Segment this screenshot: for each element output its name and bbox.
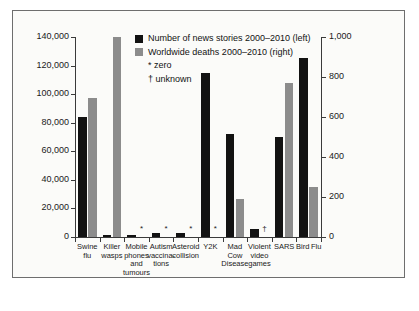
legend-item-news-stories: Number of news stories 2000–2010 (left) — [135, 32, 311, 46]
marker-unknown: † — [260, 225, 269, 233]
right-tick — [322, 237, 326, 238]
bar-news-stories — [250, 229, 259, 237]
bar-news-stories — [226, 134, 235, 237]
chart-figure: 020,00040,00060,00080,000100,000120,0001… — [12, 10, 405, 278]
legend-note-unknown-label: † unknown — [135, 73, 192, 87]
left-tick — [71, 94, 75, 95]
right-tick-label: 400 — [329, 152, 344, 161]
bar-deaths — [285, 83, 294, 237]
legend-label-deaths: Worldwide deaths 2000–2010 (right) — [148, 46, 293, 60]
right-tick-label: 1,000 — [329, 32, 352, 41]
chart-legend: Number of news stories 2000–2010 (left) … — [135, 32, 311, 86]
legend-note-zero-label: * zero — [135, 59, 172, 73]
left-tick-label: 100,000 — [36, 89, 69, 98]
marker-zero: * — [186, 225, 195, 233]
x-tick — [223, 238, 224, 242]
right-tick-label: 200 — [329, 192, 344, 201]
left-tick — [71, 123, 75, 124]
right-tick — [322, 77, 326, 78]
bar-news-stories — [176, 233, 185, 237]
x-tick — [75, 238, 76, 242]
left-tick-label: 60,000 — [41, 146, 69, 155]
right-tick-label: 0 — [329, 232, 334, 241]
legend-item-deaths: Worldwide deaths 2000–2010 (right) — [135, 46, 311, 60]
bar-news-stories — [152, 233, 161, 237]
left-tick — [71, 180, 75, 181]
bar-news-stories — [127, 235, 136, 237]
legend-label-news: Number of news stories 2000–2010 (left) — [148, 32, 311, 46]
marker-zero: * — [162, 225, 171, 233]
right-tick — [322, 197, 326, 198]
legend-swatch-news-icon — [135, 35, 143, 43]
right-tick — [322, 37, 326, 38]
bar-news-stories — [103, 235, 112, 237]
legend-swatch-deaths-icon — [135, 48, 143, 56]
left-tick-label: 120,000 — [36, 61, 69, 70]
left-tick-label: 0 — [64, 232, 69, 241]
bar-deaths — [309, 187, 318, 237]
left-tick-label: 140,000 — [36, 32, 69, 41]
left-tick — [71, 208, 75, 209]
legend-note-zero: * zero — [135, 59, 311, 73]
bar-deaths — [236, 199, 245, 237]
right-tick — [322, 157, 326, 158]
x-tick — [100, 238, 101, 242]
x-tick — [272, 238, 273, 242]
bar-news-stories — [78, 117, 87, 237]
right-tick-label: 600 — [329, 112, 344, 121]
right-tick-label: 800 — [329, 72, 344, 81]
left-axis-line — [75, 37, 76, 238]
legend-note-unknown: † unknown — [135, 73, 311, 87]
marker-zero: * — [137, 225, 146, 233]
left-tick — [71, 66, 75, 67]
left-tick-label: 40,000 — [41, 175, 69, 184]
bar-deaths — [88, 98, 97, 237]
left-tick — [71, 151, 75, 152]
bar-news-stories — [275, 137, 284, 237]
category-label: Bird Flu — [294, 243, 323, 252]
left-tick-label: 20,000 — [41, 203, 69, 212]
marker-zero: * — [211, 225, 220, 233]
right-tick — [322, 117, 326, 118]
left-tick — [71, 37, 75, 38]
left-tick-label: 80,000 — [41, 118, 69, 127]
right-axis-line — [321, 37, 322, 238]
bar-news-stories — [201, 73, 210, 237]
bar-deaths — [113, 37, 122, 237]
x-tick — [321, 238, 322, 242]
